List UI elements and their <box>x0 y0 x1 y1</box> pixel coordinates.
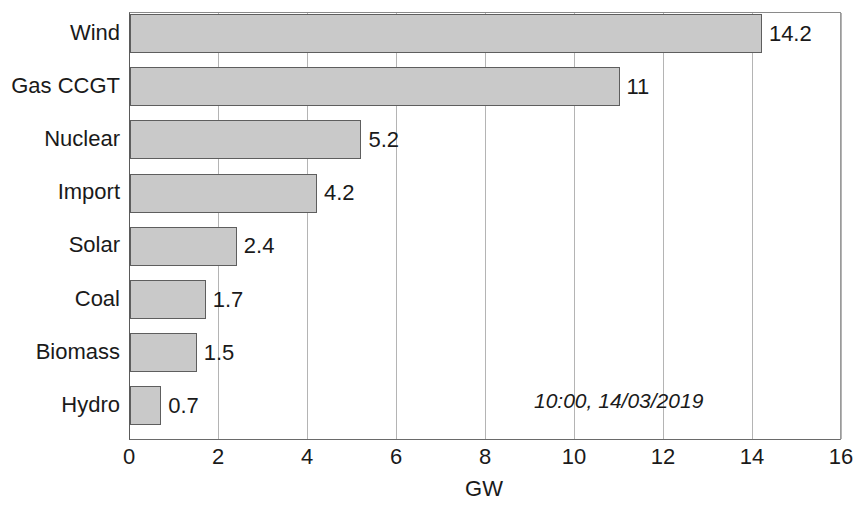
x-axis-tick-label: 16 <box>829 446 853 468</box>
x-axis-tick-label: 0 <box>123 446 135 468</box>
bar-row: 5.2 <box>130 120 842 159</box>
y-axis-category-labels: WindGas CCGTNuclearImportSolarCoalBiomas… <box>0 12 120 440</box>
y-axis-category-label: Wind <box>0 22 120 44</box>
x-axis-tick-label: 8 <box>479 446 491 468</box>
timestamp-annotation: 10:00, 14/03/2019 <box>534 390 703 411</box>
bar-value-label: 5.2 <box>361 129 399 151</box>
bar-value-label: 14.2 <box>762 23 812 45</box>
bar-row: 2.4 <box>130 227 842 266</box>
bar-value-label: 1.5 <box>197 342 235 364</box>
bar[interactable] <box>130 333 197 372</box>
bar[interactable] <box>130 280 206 319</box>
x-axis-tick-labels: 0246810121416 <box>0 446 860 476</box>
bar-row: 11 <box>130 67 842 106</box>
bar[interactable] <box>130 14 762 53</box>
bar[interactable] <box>130 120 361 159</box>
y-axis-category-label: Nuclear <box>0 128 120 150</box>
bar-row: 4.2 <box>130 174 842 213</box>
x-axis-tick-label: 2 <box>212 446 224 468</box>
bar-value-label: 0.7 <box>161 395 199 417</box>
x-axis-title-text: GW <box>465 476 503 501</box>
y-axis-category-label: Biomass <box>0 341 120 363</box>
bar-value-label: 11 <box>620 76 650 98</box>
bar-value-label: 4.2 <box>317 182 355 204</box>
bar-value-label: 2.4 <box>237 235 275 257</box>
x-axis-title: GW <box>0 478 860 500</box>
bar-value-label: 1.7 <box>206 289 244 311</box>
bar-row: 1.5 <box>130 333 842 372</box>
y-axis-category-label: Solar <box>0 234 120 256</box>
plot-area: 14.2115.24.22.41.71.50.7 <box>129 12 841 440</box>
x-axis-tick-label: 14 <box>740 446 764 468</box>
x-axis-tick-label: 10 <box>562 446 586 468</box>
bar-chart: WindGas CCGTNuclearImportSolarCoalBiomas… <box>0 0 860 508</box>
bar[interactable] <box>130 174 317 213</box>
bar[interactable] <box>130 227 237 266</box>
bar-row: 1.7 <box>130 280 842 319</box>
x-axis-tick-label: 4 <box>301 446 313 468</box>
x-axis-tick-label: 6 <box>390 446 402 468</box>
y-axis-category-label: Hydro <box>0 394 120 416</box>
x-axis-tick-label: 12 <box>651 446 675 468</box>
y-axis-category-label: Coal <box>0 288 120 310</box>
bar[interactable] <box>130 386 161 425</box>
y-axis-category-label: Import <box>0 181 120 203</box>
bar[interactable] <box>130 67 620 106</box>
y-axis-category-label: Gas CCGT <box>0 75 120 97</box>
bar-row: 14.2 <box>130 14 842 53</box>
bar-row: 0.7 <box>130 386 842 425</box>
